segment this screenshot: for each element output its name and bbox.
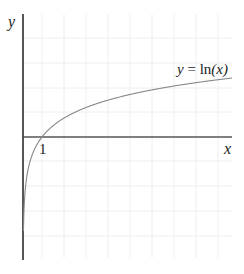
ln-curve — [23, 78, 232, 231]
x-axis-label: x — [224, 141, 231, 157]
fn-y: y — [177, 61, 184, 77]
grid-lines — [23, 14, 232, 258]
plot-area — [0, 0, 244, 274]
function-annotation: y = ln(x) — [177, 62, 228, 77]
fn-arg: (x) — [211, 61, 228, 77]
fn-eq: = ln — [184, 61, 212, 77]
x-tick-1: 1 — [39, 142, 47, 157]
y-axis-label: y — [8, 14, 15, 30]
